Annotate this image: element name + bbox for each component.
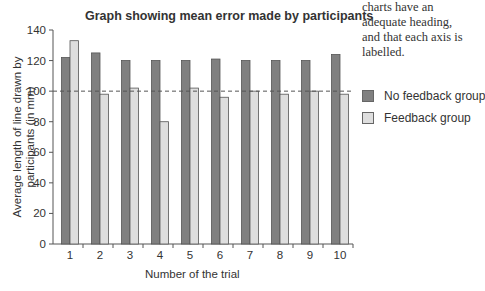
bar <box>220 97 229 244</box>
bar <box>152 61 161 244</box>
bar <box>340 94 349 244</box>
bar <box>212 59 221 244</box>
y-tick-label: 0 <box>40 238 46 250</box>
y-tick-label: 120 <box>27 55 46 67</box>
y-tick-label: 60 <box>33 146 46 158</box>
legend-swatch-no-feedback <box>362 90 374 102</box>
x-tick-label: 9 <box>307 249 313 261</box>
x-tick-label: 5 <box>187 249 193 261</box>
y-tick-label: 80 <box>33 116 46 128</box>
y-tick-label: 140 <box>27 24 46 36</box>
bar <box>62 58 71 244</box>
legend-label-feedback: Feedback group <box>384 111 471 125</box>
x-tick-label: 2 <box>97 249 103 261</box>
y-tick-label: 100 <box>27 85 46 97</box>
bar <box>332 54 341 244</box>
legend-item-feedback: Feedback group <box>362 111 471 125</box>
y-tick-label: 40 <box>33 177 46 189</box>
bar <box>92 53 101 244</box>
x-tick-label: 8 <box>277 249 283 261</box>
x-tick-label: 10 <box>334 249 347 261</box>
x-tick-label: 4 <box>157 249 164 261</box>
x-tick-label: 3 <box>127 249 133 261</box>
x-tick-label: 7 <box>247 249 253 261</box>
bar <box>70 41 79 244</box>
bar <box>242 61 251 244</box>
x-tick-label: 1 <box>67 249 73 261</box>
bar <box>122 61 131 244</box>
bar <box>182 61 191 244</box>
bar <box>280 94 289 244</box>
x-tick-label: 6 <box>217 249 223 261</box>
bar <box>100 94 109 244</box>
bar <box>310 91 319 244</box>
y-tick-label: 20 <box>33 207 46 219</box>
bar <box>250 91 259 244</box>
legend-label-no-feedback: No feedback group <box>384 89 485 103</box>
bar <box>160 122 169 244</box>
bar <box>190 88 199 244</box>
bar <box>130 88 139 244</box>
legend-item-no-feedback: No feedback group <box>362 89 485 103</box>
bar <box>272 61 281 244</box>
bar <box>302 61 311 244</box>
legend-swatch-feedback <box>362 112 374 124</box>
